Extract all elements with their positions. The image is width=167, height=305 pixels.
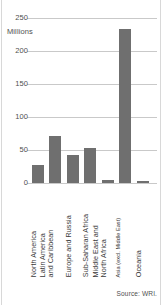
bar-latin-america-and-caribbean <box>49 136 61 183</box>
x-label-line-2: North Africa <box>99 239 108 277</box>
x-label-text: Oceania <box>135 250 143 277</box>
x-label-text: Europe and Russia <box>65 215 73 277</box>
bar-series <box>27 0 157 184</box>
x-label-line-2: and Caribbean <box>46 229 55 277</box>
bar-middle-east-and-north-africa <box>102 180 114 183</box>
source-note: Source: WRI. <box>117 290 157 297</box>
x-label-text: Asia (excl. Middle East) <box>115 217 121 277</box>
bar-sub-saharan-africa <box>84 148 96 183</box>
x-label-text: Middle East andNorth Africa <box>92 185 108 277</box>
x-label-latin-america-and-caribbean: Latin Americaand Caribbean <box>49 185 61 277</box>
x-label-europe-and-russia: Europe and Russia <box>67 185 79 277</box>
plot-area: 250 200 150 100 50 0 Millions <box>0 0 167 190</box>
bar-oceania <box>137 181 149 183</box>
x-label-text: Sub-Saharan Africa <box>82 214 90 277</box>
chart-figure: 250 200 150 100 50 0 Millions North Amer… <box>0 0 167 305</box>
x-axis-category-labels: North America Latin Americaand Caribbean… <box>27 185 157 280</box>
x-label-text: Latin Americaand Caribbean <box>39 185 55 277</box>
x-label-asia-excl-middle-east: Asia (excl. Middle East) <box>119 185 131 277</box>
x-label-middle-east-and-north-africa: Middle East andNorth Africa <box>102 185 114 277</box>
x-label-oceania: Oceania <box>137 185 149 277</box>
bar-asia-excl-middle-east <box>119 29 131 183</box>
bar-europe-and-russia <box>67 155 79 183</box>
bar-north-america <box>32 165 44 183</box>
